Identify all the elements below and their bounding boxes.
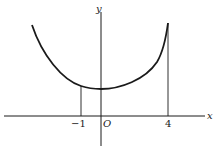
tick-label-neg1: −1 [71, 118, 86, 129]
x-axis-label: x [207, 110, 213, 121]
function-curve [32, 23, 168, 89]
y-axis-label: y [95, 3, 102, 14]
origin-label: O [103, 118, 111, 129]
tick-label-4: 4 [165, 118, 171, 129]
function-graph: y x O −1 4 [0, 0, 217, 153]
